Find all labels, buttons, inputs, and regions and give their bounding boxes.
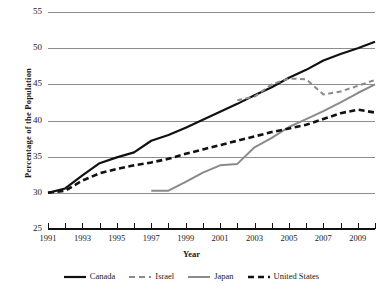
x-axis-tick-label: 1997: [143, 234, 160, 243]
series-line-israel: [237, 79, 375, 101]
legend-swatch-icon: [248, 273, 270, 281]
y-axis-tick-label: 25: [0, 224, 42, 233]
legend-label: Japan: [214, 272, 233, 281]
x-axis-tick-label: 2007: [315, 234, 332, 243]
y-axis-tick-label: 55: [0, 7, 42, 16]
x-axis-tick-label: 2005: [280, 234, 297, 243]
x-axis-tick: [375, 223, 376, 229]
y-axis-tick-label: 30: [0, 188, 42, 197]
x-axis-tick-label: 2003: [246, 234, 263, 243]
x-axis-tick-label: 1991: [40, 234, 57, 243]
y-axis-tick-label: 35: [0, 152, 42, 161]
y-axis-tick-label: 50: [0, 43, 42, 52]
legend-label: Canada: [90, 272, 116, 281]
legend-label: Israel: [155, 272, 174, 281]
plot-area: [48, 12, 375, 229]
y-axis-tick-label: 40: [0, 116, 42, 125]
y-axis-tick-label: 45: [0, 79, 42, 88]
series-lines: [48, 12, 375, 229]
x-axis-tick-label: 1993: [74, 234, 91, 243]
chart-legend: CanadaIsraelJapanUnited States: [0, 272, 383, 281]
x-axis-tick-label: 1999: [177, 234, 194, 243]
x-axis-tick-label: 2009: [349, 234, 366, 243]
line-chart: Percentage of the Population 25303540455…: [0, 0, 383, 296]
legend-swatch-icon: [129, 273, 151, 281]
legend-label: United States: [274, 272, 320, 281]
legend-swatch-icon: [64, 273, 86, 281]
x-axis-tick-label: 2001: [212, 234, 229, 243]
legend-item-united-states[interactable]: United States: [248, 272, 320, 281]
x-axis-tick-label: 1995: [108, 234, 125, 243]
legend-swatch-icon: [188, 273, 210, 281]
legend-item-canada[interactable]: Canada: [64, 272, 116, 281]
x-axis-title: Year: [0, 249, 383, 259]
series-line-japan: [151, 84, 375, 190]
legend-item-japan[interactable]: Japan: [188, 272, 233, 281]
series-line-united-states: [48, 110, 375, 193]
legend-item-israel[interactable]: Israel: [129, 272, 174, 281]
